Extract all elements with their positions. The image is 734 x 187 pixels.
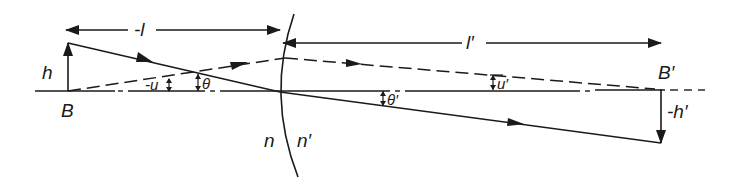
optics-refraction-diagram: -l l′ h B -h′ B′ -u θ u′ θ′ [0,0,734,187]
optical-axis [35,90,705,91]
object-distance-label: -l [134,19,145,40]
object-height-label: h [42,62,53,83]
image-distance-label: l′ [466,32,475,53]
chief-ray [68,43,661,143]
object-point-label: B [61,100,74,121]
angle-theta-prime-label: θ′ [387,91,399,108]
marginal-ray-direction-arrow [230,62,248,70]
angle-u-prime-label: u′ [497,75,509,92]
index-n-label: n [264,130,275,151]
image-height-label: -h′ [667,101,689,122]
chief-ray-direction-arrow [136,52,153,62]
angle-u-label: -u [145,76,159,93]
angle-theta-label: θ [202,75,210,92]
index-n-prime-label: n′ [297,130,313,151]
marginal-ray-direction-arrow [346,59,362,67]
refracting-surface [281,14,298,177]
image-point-label: B′ [658,62,676,83]
